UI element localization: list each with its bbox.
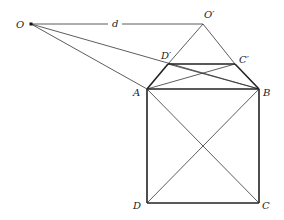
diag-Dp-B xyxy=(168,64,259,89)
diag-A-Cp xyxy=(147,64,235,89)
point-O-marker xyxy=(30,23,33,26)
label-Op: O′ xyxy=(204,9,215,20)
label-A: A xyxy=(132,87,140,98)
label-D: D xyxy=(132,200,141,211)
label-B: B xyxy=(262,87,270,98)
edge-Dp-A xyxy=(147,64,168,89)
label-C: C xyxy=(262,200,270,211)
line-Op-Dp xyxy=(168,24,203,64)
label-Cp: C′ xyxy=(239,54,250,65)
perspective-diagram: O d O′ D′ C′ A B D C xyxy=(0,0,284,220)
label-O: O xyxy=(16,19,24,30)
label-d: d xyxy=(112,18,118,29)
label-Dp: D′ xyxy=(160,50,172,61)
line-Op-Cp xyxy=(203,24,235,64)
ray-O-A xyxy=(31,24,147,89)
